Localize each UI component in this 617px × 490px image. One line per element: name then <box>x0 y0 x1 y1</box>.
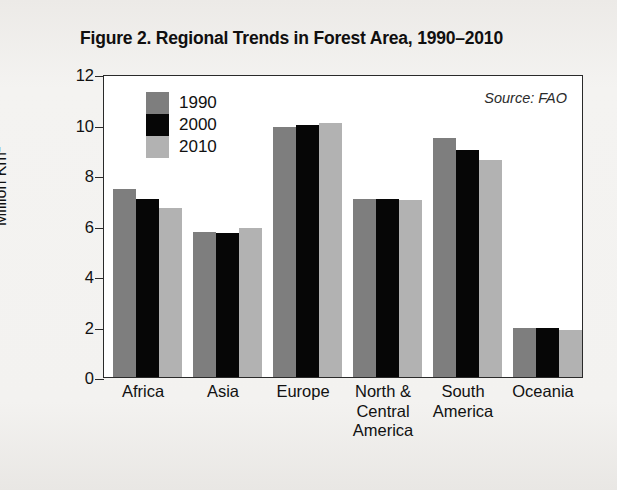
x-axis-category-label-line: Oceania <box>503 382 583 402</box>
x-axis-category-label-line: Central <box>343 402 423 422</box>
x-axis-category-label: North &CentralAmerica <box>343 382 423 441</box>
bar-group <box>433 76 502 377</box>
source-note: Source: FAO <box>484 90 567 106</box>
bar <box>479 160 502 377</box>
x-axis-category-label-line: America <box>343 421 423 441</box>
plot-frame: 199020002010 Source: FAO <box>103 75 583 378</box>
y-axis-tick-label: 2 <box>85 319 94 336</box>
bar <box>433 138 456 377</box>
x-axis-category-label-line: Asia <box>183 382 263 402</box>
y-axis-tick-label: 0 <box>85 370 94 387</box>
y-axis-title-text: Million Km <box>0 152 9 226</box>
legend-item-label: 2010 <box>179 136 217 157</box>
legend-item: 1990 <box>146 92 286 114</box>
y-axis-tick-mark <box>95 228 104 229</box>
x-axis-category-label: Europe <box>263 382 343 402</box>
bar <box>536 328 559 377</box>
x-axis-category-label-line: North & <box>343 382 423 402</box>
bar <box>376 199 399 377</box>
legend-item-label: 2000 <box>179 114 217 135</box>
bar <box>456 150 479 377</box>
legend-swatch-1990 <box>146 92 169 114</box>
bar <box>399 200 422 377</box>
y-axis-tick-label: 8 <box>85 168 94 185</box>
bar <box>159 208 182 377</box>
y-axis-tick-mark <box>95 278 104 279</box>
figure-container: Figure 2. Regional Trends in Forest Area… <box>0 0 617 490</box>
y-axis-tick-label: 6 <box>85 218 94 235</box>
legend-item: 2010 <box>146 136 286 158</box>
legend-item: 2000 <box>146 114 286 136</box>
y-axis-tick-mark <box>95 127 104 128</box>
page-title: Figure 2. Regional Trends in Forest Area… <box>80 28 503 49</box>
x-axis-category-label: Oceania <box>503 382 583 402</box>
legend-swatch-2000 <box>146 114 169 136</box>
bar <box>353 199 376 377</box>
x-axis-category-label-line: South <box>423 382 503 402</box>
x-axis-category-label-line: Africa <box>103 382 183 402</box>
bar <box>559 330 582 377</box>
bar <box>113 189 136 377</box>
bar <box>193 232 216 377</box>
bar-group <box>513 76 582 377</box>
bar <box>136 199 159 377</box>
y-axis-tick-label: 4 <box>85 269 94 286</box>
y-axis-tick-label: 10 <box>76 117 94 134</box>
y-axis-tick-mark <box>95 177 104 178</box>
legend-swatch-2010 <box>146 136 169 158</box>
x-axis-category-label: Asia <box>183 382 263 402</box>
x-axis-category-labels: AfricaAsiaEuropeNorth &CentralAmericaSou… <box>103 382 583 462</box>
x-axis-category-label: SouthAmerica <box>423 382 503 421</box>
legend: 199020002010 <box>146 92 286 158</box>
y-axis-title: Million Km2 <box>0 26 10 226</box>
y-axis-title-superscript: 2 <box>0 146 2 152</box>
x-axis-category-label: Africa <box>103 382 183 402</box>
y-axis-tick-mark <box>95 76 104 77</box>
bar <box>239 228 262 377</box>
legend-item-label: 1990 <box>179 92 217 113</box>
bar <box>216 233 239 377</box>
bar <box>296 125 319 378</box>
y-axis-tick-label: 12 <box>76 67 94 84</box>
bar <box>273 127 296 377</box>
x-axis-category-label-line: America <box>423 402 503 422</box>
bar <box>319 123 342 377</box>
bar <box>513 328 536 377</box>
x-axis-category-label-line: Europe <box>263 382 343 402</box>
y-axis-tick-labels: 024681012 <box>58 75 94 378</box>
y-axis-tick-mark <box>95 379 104 380</box>
y-axis-tick-mark <box>95 329 104 330</box>
bar-group <box>353 76 422 377</box>
